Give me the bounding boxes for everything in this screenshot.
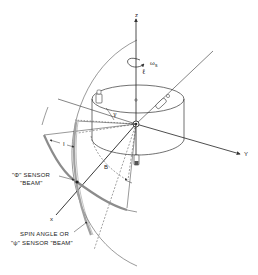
z-axis-label: z (135, 12, 138, 19)
y-axis-label: Y (244, 151, 248, 158)
gamma-label: γ (113, 110, 117, 117)
spin-rate-label: ωs (150, 60, 158, 69)
cylinder-bottom (92, 140, 184, 155)
x-axis-label: x (50, 216, 53, 223)
cylinder-top (92, 85, 184, 113)
solid-line-to-b-end (127, 124, 136, 208)
spin-subscript: s (155, 62, 158, 68)
phi-sensor-beam (44, 135, 127, 210)
phi-sensor-label-line2: "BEAM" (20, 180, 42, 187)
y-axis (136, 124, 240, 154)
script-l-label: ℓ (142, 69, 146, 76)
x-axis (56, 124, 136, 215)
angle-i-label: I (63, 141, 65, 148)
solid-line-to-phi-beam (44, 124, 136, 135)
phi-sensor-label-line1: "Φ" SENSOR (12, 172, 50, 179)
sensor-top-left (96, 90, 102, 103)
dashed-line-1 (78, 124, 136, 133)
psi-sensor-label-line1: SPIN ANGLE OR (20, 231, 69, 238)
psi-label-leader (74, 222, 87, 232)
celestial-sphere-arc (72, 40, 137, 266)
psi-sensor-label-line2: "ψ" SENSOR "BEAM" (11, 240, 73, 247)
angle-b-arc (91, 136, 127, 180)
sphere-arc-upper (42, 107, 48, 125)
angle-i-arrow (50, 140, 60, 143)
solid-line-to-psi-top (76, 121, 136, 124)
reference-line-upper-right (136, 51, 213, 124)
sensor-bottom (134, 155, 139, 165)
dashed-line-2 (94, 124, 136, 250)
beam-intersection (75, 180, 78, 183)
sensor-capsule-right (155, 94, 170, 109)
angle-b-label: B (104, 164, 108, 171)
